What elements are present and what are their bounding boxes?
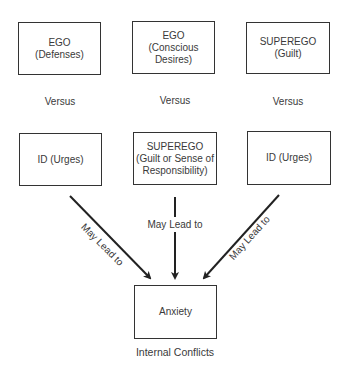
box-superego-guilt: SUPEREGO (Guilt) [246,22,330,74]
box-title: ID (Urges) [37,154,83,166]
box-anxiety: Anxiety [134,285,217,339]
center-arrow-label: May Lead to [145,219,205,230]
box-title: ID (Urges) [266,152,312,164]
right-arrow-label: May Lead to [227,213,272,262]
box-title: Anxiety [159,306,192,318]
right-arrow [204,195,279,278]
box-title: SUPEREGO [260,36,317,48]
box-subtitle: (Conscious [148,42,198,54]
box-id-urges-left: ID (Urges) [19,133,102,186]
versus-label-3: Versus [268,96,308,107]
box-subtitle-2: Responsibility) [142,165,207,177]
box-title: SUPEREGO [147,141,204,153]
versus-label-1: Versus [40,96,80,107]
box-subtitle: (Guilt or Sense of [136,153,214,165]
box-id-urges-right: ID (Urges) [247,131,331,185]
versus-label-2: Versus [155,95,195,106]
box-superego-responsibility: SUPEREGO (Guilt or Sense of Responsibili… [133,132,217,185]
box-subtitle: (Defenses) [35,49,84,61]
box-title: EGO [162,30,184,42]
diagram-caption: Internal Conflicts [125,346,225,358]
box-ego-defenses: EGO (Defenses) [18,22,101,75]
box-subtitle: (Guilt) [274,48,301,60]
left-arrow [70,196,150,278]
box-title: EGO [48,37,70,49]
box-ego-conscious-desires: EGO (Conscious Desires) [132,21,215,74]
box-subtitle-2: Desires) [155,54,192,66]
